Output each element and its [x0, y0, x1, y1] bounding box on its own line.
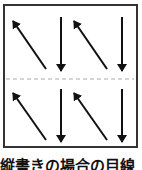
arrow-diagonal-icon	[13, 21, 46, 69]
arrow-diagonal-icon	[13, 93, 46, 140]
arrow-diagonal-icon	[74, 21, 107, 69]
arrow-diagonal-icon	[74, 93, 107, 140]
bottom-row-arrows	[13, 89, 122, 142]
eye-movement-arrows	[0, 0, 142, 170]
top-row-arrows	[13, 17, 122, 71]
diagram-caption: 縦書きの場合の目線	[0, 154, 142, 170]
